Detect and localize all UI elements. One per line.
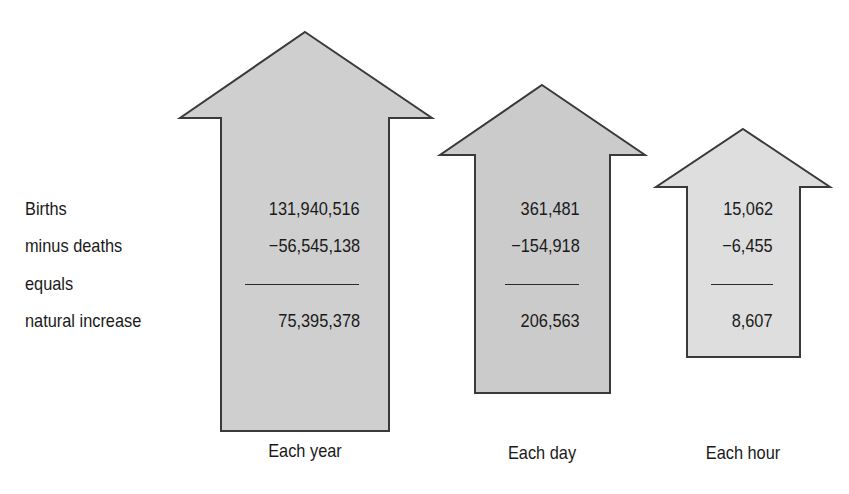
hour-births-value: 15,062: [723, 198, 773, 220]
caption-each-hour: Each hour: [706, 442, 780, 464]
hour-natural-increase-value: 8,607: [732, 310, 773, 332]
hour-sum-rule: [711, 284, 773, 285]
caption-each-day: Each day: [508, 442, 576, 464]
day-natural-increase-value: 206,563: [521, 310, 580, 332]
row-label-equals: equals: [25, 273, 73, 295]
arrow-each-year: [180, 32, 432, 431]
day-deaths-value: −154,918: [511, 235, 580, 257]
year-births-value: 131,940,516: [269, 198, 360, 220]
row-label-natural-increase: natural increase: [25, 310, 141, 332]
row-label-deaths: minus deaths: [25, 235, 122, 257]
day-births-value: 361,481: [521, 198, 580, 220]
caption-each-year: Each year: [268, 440, 342, 462]
row-label-births: Births: [25, 198, 67, 220]
hour-deaths-value: −6,455: [723, 235, 773, 257]
year-sum-rule: [245, 284, 359, 285]
day-sum-rule: [505, 284, 579, 285]
year-natural-increase-value: 75,395,378: [278, 310, 360, 332]
year-deaths-value: −56,545,138: [269, 235, 360, 257]
